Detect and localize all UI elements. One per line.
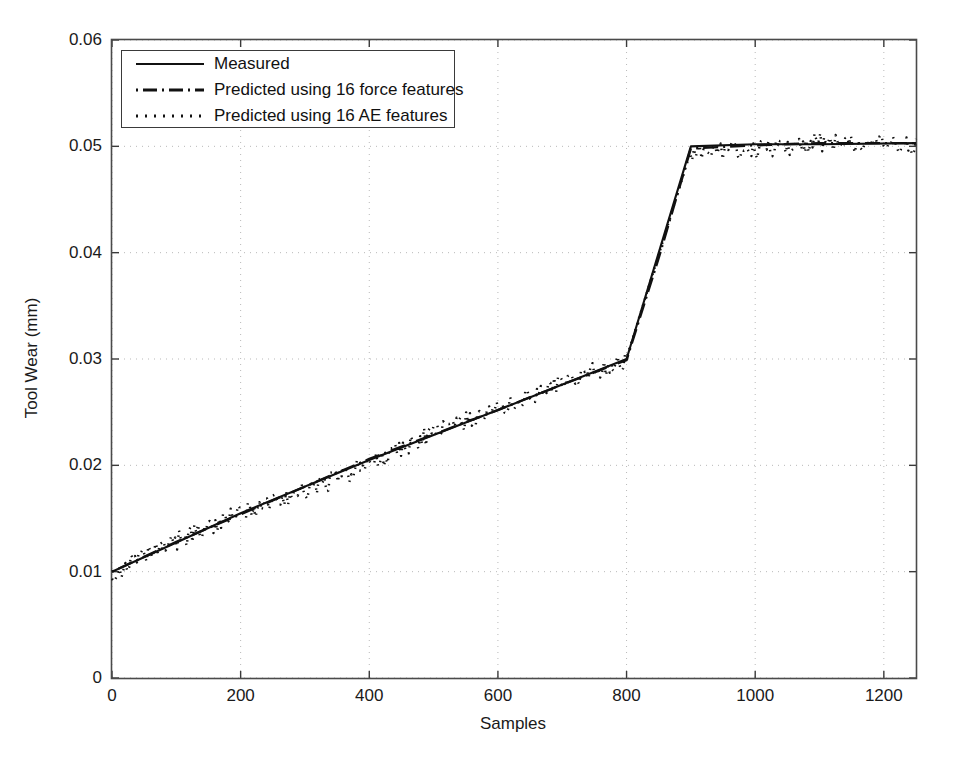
- y-tick-label: 0.06: [0, 30, 102, 50]
- gridlines: [112, 40, 916, 678]
- y-tick-label: 0.02: [0, 455, 102, 475]
- legend-swatch-solid: [132, 54, 208, 74]
- x-tick-label: 600: [484, 686, 512, 706]
- y-tick-label: 0.05: [0, 136, 102, 156]
- series-line-2: [112, 133, 916, 581]
- legend-item-measured: Measured: [122, 51, 454, 77]
- y-tick-label: 0.04: [0, 243, 102, 263]
- x-tick-label: 1200: [865, 686, 903, 706]
- x-tick-label: 400: [355, 686, 383, 706]
- legend-label: Measured: [214, 54, 290, 74]
- x-tick-label: 1000: [736, 686, 774, 706]
- y-axis-title: Tool Wear (mm): [22, 298, 42, 419]
- data-series-layer: [112, 133, 916, 581]
- legend-label: Predicted using 16 AE features: [214, 106, 447, 126]
- y-tick-label: 0.01: [0, 562, 102, 582]
- series-line-0: [112, 143, 916, 572]
- chart-legend: Measured Predicted using 16 force featur…: [121, 50, 455, 128]
- legend-item-force: Predicted using 16 force features: [122, 77, 454, 103]
- x-axis-title: Samples: [480, 714, 546, 734]
- x-tick-label: 0: [107, 686, 116, 706]
- legend-label: Predicted using 16 force features: [214, 80, 463, 100]
- figure-canvas: 00.010.020.030.040.050.06 02004006008001…: [0, 0, 964, 762]
- x-tick-label: 200: [226, 686, 254, 706]
- legend-swatch-dotted: [132, 106, 208, 126]
- y-tick-label: 0.03: [0, 349, 102, 369]
- series-line-1: [112, 143, 916, 572]
- legend-swatch-dashdot: [132, 80, 208, 100]
- x-tick-label: 800: [612, 686, 640, 706]
- y-tick-label: 0: [0, 668, 102, 688]
- legend-item-ae: Predicted using 16 AE features: [122, 103, 454, 129]
